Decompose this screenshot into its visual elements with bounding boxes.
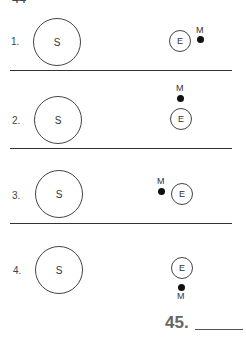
divider [10,148,232,149]
earth-label: E [178,114,184,124]
option-3-sun: S [35,170,83,218]
option-1-sun: S [33,18,81,66]
option-3-moon [158,188,165,195]
earth-label: E [177,36,183,46]
option-4-moon [178,284,185,291]
option-3-moon-label: M [157,176,165,186]
option-2-number: 2. [12,115,20,126]
option-2-moon [177,95,184,102]
previous-question-fragment: 44 [12,0,26,7]
option-4-earth: E [171,257,193,279]
sun-label: S [56,189,63,200]
option-2-sun: S [34,96,82,144]
divider [10,70,232,71]
option-1-moon-label: M [196,25,204,35]
option-1-earth: E [169,30,191,52]
earth-label: E [179,189,185,199]
option-4-sun: S [35,246,83,294]
option-3-number: 3. [12,190,20,201]
option-4-number: 4. [13,265,21,276]
earth-label: E [179,263,185,273]
option-1-number: 1. [11,36,19,47]
option-2-earth: E [170,108,192,130]
divider [10,223,232,224]
option-1-moon [197,36,204,43]
question-number: 45. [165,313,189,333]
answer-blank[interactable] [195,329,243,330]
option-4-moon-label: M [177,291,185,301]
option-2-moon-label: M [176,83,184,93]
sun-label: S [56,265,63,276]
option-3-earth: E [171,183,193,205]
sun-label: S [55,115,62,126]
sun-label: S [54,37,61,48]
